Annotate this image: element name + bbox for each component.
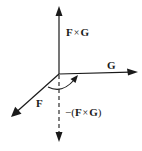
neg-prefix: −( [65, 106, 75, 118]
neg-label-g: G [89, 106, 98, 118]
vector-f [11, 74, 59, 117]
label-vector-f: F [36, 98, 43, 109]
neg-suffix: ) [98, 106, 102, 118]
vector-negative-f-cross-g [56, 75, 63, 142]
label-g: G [80, 26, 89, 38]
label-negative-f-cross-g: −(F×G) [65, 107, 101, 118]
label-f: F [66, 26, 73, 38]
cross-product-diagram [0, 0, 142, 151]
vector-f-cross-g [56, 6, 63, 74]
vector-g [59, 69, 138, 76]
label-g-text: G [107, 59, 116, 71]
rotation-arrow [48, 75, 78, 89]
arrowhead-down-icon [56, 132, 63, 142]
arrowhead-right-icon [127, 69, 138, 76]
label-vector-g: G [107, 60, 116, 71]
arrowhead-up-icon [56, 6, 63, 16]
label-f-text: F [36, 97, 43, 109]
neg-label-f: F [75, 106, 82, 118]
label-f-cross-g: F×G [66, 27, 89, 38]
